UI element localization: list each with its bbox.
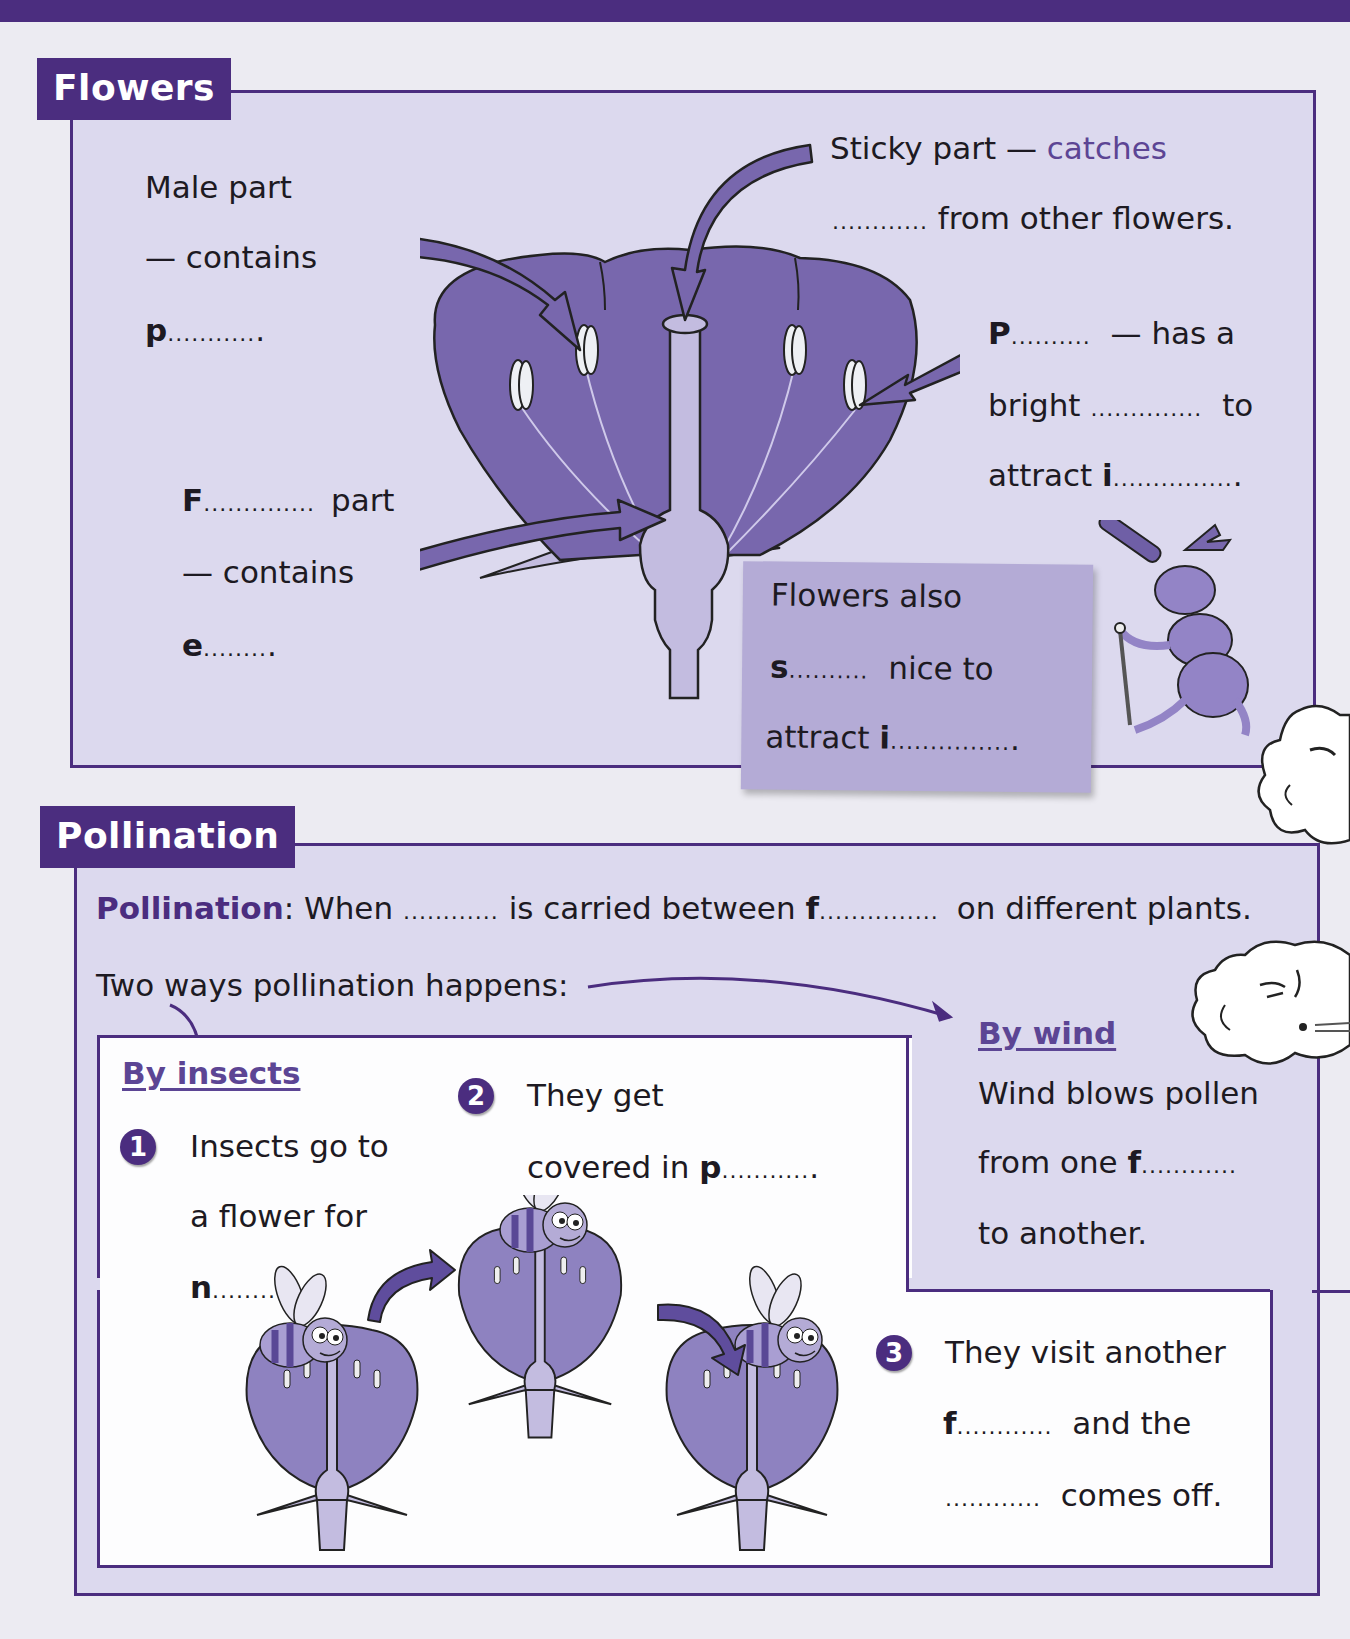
fill-blank[interactable]: ............ <box>403 899 499 924</box>
beetle-with-telescope-icon <box>1095 520 1275 750</box>
fill-blank[interactable]: ........... <box>721 1158 809 1183</box>
female-part-label[interactable]: F.............. part <box>182 485 395 516</box>
fill-blank[interactable]: ............ <box>832 209 928 234</box>
letter-hint: f <box>1128 1144 1142 1180</box>
fill-blank[interactable]: .......... <box>788 658 868 684</box>
male-part-blank[interactable]: p............ <box>145 315 265 346</box>
letter-hint: n <box>190 1269 212 1305</box>
fill-blank[interactable]: ............... <box>1113 466 1233 491</box>
fill-blank[interactable]: ............... <box>890 729 1010 755</box>
step-3-line1: They visit another <box>945 1337 1226 1368</box>
fill-blank[interactable]: ............ <box>1141 1153 1237 1178</box>
callout-line2[interactable]: s.......... nice to <box>770 651 994 684</box>
letter-hint: i <box>879 720 890 756</box>
letter-hint: f <box>943 1405 957 1441</box>
female-part-blank[interactable]: e......... <box>182 630 277 661</box>
callout-line3[interactable]: attract i................ <box>765 721 1020 755</box>
callout-line1: Flowers also <box>771 579 963 612</box>
female-part-contains: — contains <box>182 557 354 588</box>
petal-line2[interactable]: bright .............. to <box>988 390 1253 421</box>
step-3-line2[interactable]: f............ and the <box>943 1408 1191 1439</box>
sticky-part-label: Sticky part — catches <box>830 133 1167 164</box>
letter-hint: p <box>145 312 167 348</box>
pollination-section-title: Pollination <box>40 806 295 868</box>
fill-blank[interactable]: ............ <box>945 1486 1041 1511</box>
by-insects-heading: By insects <box>122 1055 300 1091</box>
by-wind-line1: Wind blows pollen <box>978 1078 1259 1109</box>
sticky-part-hint: catches <box>1047 130 1167 166</box>
fill-blank[interactable]: .............. <box>203 491 315 516</box>
pollination-definition[interactable]: Pollination: When ............ is carrie… <box>96 893 1252 924</box>
fill-blank[interactable]: .............. <box>1090 396 1202 421</box>
step-2-badge: 2 <box>458 1078 494 1114</box>
step-3-line3[interactable]: ............ comes off. <box>945 1480 1222 1511</box>
male-part-label: Male part <box>145 172 292 203</box>
fill-blank[interactable]: ........... <box>167 321 255 346</box>
definition-term: Pollination <box>96 890 284 926</box>
fill-blank[interactable]: .......... <box>1011 324 1091 349</box>
letter-hint: F <box>182 482 203 518</box>
by-wind-heading: By wind <box>978 1015 1116 1051</box>
by-wind-line3: to another. <box>978 1218 1147 1249</box>
step-1-badge: 1 <box>120 1129 156 1165</box>
letter-hint: e <box>182 627 203 663</box>
letter-hint: i <box>1102 457 1113 493</box>
fill-blank[interactable]: ........ <box>203 636 267 661</box>
by-wind-line2[interactable]: from one f............ <box>978 1147 1237 1178</box>
letter-hint: P <box>988 315 1011 351</box>
fill-blank[interactable]: ............... <box>819 899 939 924</box>
step-2-line1: They get <box>527 1080 664 1111</box>
wind-cloud-face-icon <box>1250 700 1350 850</box>
petal-label[interactable]: P.......... — has a <box>988 318 1235 349</box>
fill-blank[interactable]: ............ <box>957 1414 1053 1439</box>
step-1-line1: Insects go to <box>190 1131 389 1162</box>
letter-hint: f <box>805 890 819 926</box>
sticky-part-blank-line[interactable]: ............ from other flowers. <box>832 203 1234 234</box>
petal-line3[interactable]: attract i................ <box>988 460 1243 491</box>
flowers-also-callout: Flowers also s.......... nice to attract… <box>741 561 1093 793</box>
bee-on-flower-icon <box>240 1195 890 1555</box>
wind-cloud-face-icon <box>1185 935 1350 1075</box>
step-2-line2[interactable]: covered in p............ <box>527 1152 819 1183</box>
letter-hint: s <box>770 648 789 684</box>
male-part-contains: — contains <box>145 242 317 273</box>
letter-hint: p <box>699 1149 721 1185</box>
top-banner <box>0 0 1350 22</box>
flowers-section-title: Flowers <box>37 58 231 120</box>
